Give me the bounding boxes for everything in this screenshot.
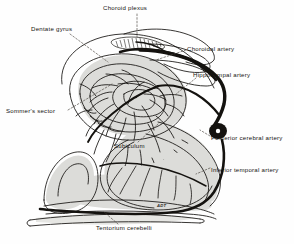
label-inferior-temporal-artery: Inferior temporal artery [211,167,279,173]
label-posterior-cerebral-artery: Posterior cerebral artery [211,135,283,141]
label-choroidal-artery: Choroidal artery [187,46,234,52]
anatomical-figure: Choroid plexus Dentate gyrus Choroidal a… [0,0,294,244]
leader-dentate-gyrus [70,34,108,62]
diagram-canvas [0,0,294,244]
label-choroid-plexus: Choroid plexus [103,5,147,11]
label-subiculum: Subiculum [114,143,145,149]
leader-posterior-cerebral-artery [200,130,210,136]
label-tentorium-cerebelli: Tentorium cerebelli [96,225,152,231]
label-dentate-gyrus: Dentate gyrus [31,26,72,32]
label-sommers-sector: Sommer's sector [6,108,55,114]
artist-signature: ADT [157,203,166,208]
label-hippocampal-artery: Hippocampal artery [193,72,250,78]
